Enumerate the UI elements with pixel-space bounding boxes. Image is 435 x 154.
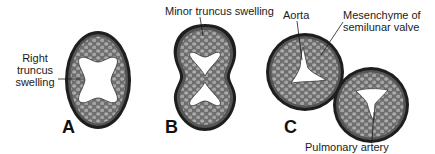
mesenchyme-label-line2: semilunar valve [343, 21, 421, 33]
panel-letter-b: B [165, 118, 178, 136]
panel-b-figure-eight [174, 24, 236, 131]
mesenchyme-label: Mesenchyme of semilunar valve [343, 9, 421, 33]
aorta-label: Aorta [283, 9, 309, 21]
panel-a-oval [65, 31, 131, 129]
right-truncus-label-line3: swelling [10, 76, 60, 88]
panel-letter-a: A [62, 118, 75, 136]
pulmonary-artery-label: Pulmonary artery [305, 141, 389, 153]
minor-truncus-label: Minor truncus swelling [165, 5, 274, 17]
panel-c-aorta [266, 33, 344, 111]
panel-c-pulmonary-artery [333, 67, 409, 143]
panel-letter-c: C [284, 118, 297, 136]
right-truncus-label-line1: Right [10, 52, 60, 64]
mesenchyme-label-line1: Mesenchyme of [343, 9, 421, 21]
right-truncus-label: Right truncus swelling [10, 52, 60, 88]
right-truncus-label-line2: truncus [10, 64, 60, 76]
